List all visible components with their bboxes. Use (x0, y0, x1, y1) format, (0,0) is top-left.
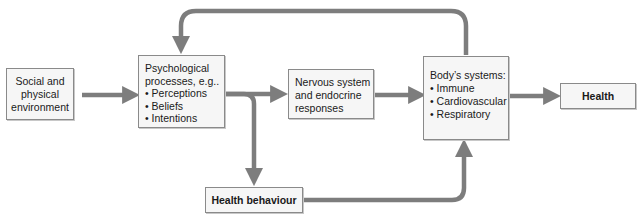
list-item: Beliefs (145, 100, 224, 113)
node-nervous-endocrine: Nervous system and endocrine responses (288, 69, 374, 119)
node-heading: Body’s systems: (430, 69, 508, 82)
list-item: Intentions (145, 112, 224, 125)
node-text: physical (21, 88, 59, 101)
node-heading: Psychological (145, 62, 224, 75)
node-psychological-processes: Psychological processes, e.g.. Perceptio… (138, 55, 225, 128)
node-label: Health behaviour (211, 194, 296, 207)
node-health: Health (560, 83, 636, 109)
node-list: Perceptions Beliefs Intentions (145, 87, 224, 125)
arrow-psych-to-behaviour (226, 94, 254, 178)
node-text: and endocrine (295, 89, 373, 102)
node-label: Health (582, 90, 614, 103)
list-item: Immune (430, 82, 508, 95)
node-body-systems: Body’s systems: Immune Cardiovascular Re… (423, 56, 509, 140)
arrow-feedback-body-to-psych (181, 11, 466, 55)
node-social-environment: Social and physical environment (6, 68, 74, 120)
list-item: Perceptions (145, 87, 224, 100)
node-text: environment (11, 101, 69, 114)
arrow-behaviour-to-body (304, 147, 464, 200)
node-heading: processes, e.g.. (145, 75, 224, 88)
list-item: Cardiovascular (430, 95, 508, 108)
list-item: Respiratory (430, 108, 508, 121)
node-health-behaviour: Health behaviour (205, 187, 303, 213)
node-list: Immune Cardiovascular Respiratory (430, 82, 508, 121)
node-text: Social and (15, 75, 64, 88)
node-text: Nervous system (295, 76, 373, 89)
node-text: responses (295, 102, 373, 115)
